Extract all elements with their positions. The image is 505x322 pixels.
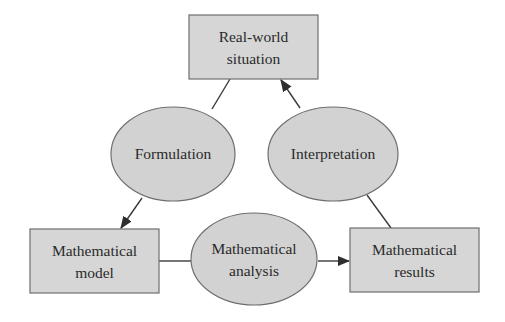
process-label: Formulation <box>135 145 212 162</box>
node-label-line2: model <box>75 264 114 281</box>
node-label-line2: situation <box>227 50 281 67</box>
modeling-cycle-diagram: Real-world situation Formulation Interpr… <box>0 0 505 322</box>
node-mathematical-results: Mathematical results <box>350 228 479 292</box>
process-label: Interpretation <box>291 145 376 162</box>
node-label-line1: Mathematical <box>372 241 457 258</box>
node-label-line1: Mathematical <box>52 242 137 259</box>
process-mathematical-analysis: Mathematical analysis <box>191 213 317 305</box>
edge-results-to-interpretation <box>367 195 391 228</box>
edge-realworld-to-formulation <box>212 79 230 109</box>
process-label-line1: Mathematical <box>211 240 296 257</box>
node-mathematical-model: Mathematical model <box>30 229 159 293</box>
node-real-world-situation: Real-world situation <box>189 15 318 79</box>
node-label-line1: Real-world <box>219 28 289 45</box>
process-formulation: Formulation <box>111 107 235 201</box>
edge-formulation-to-model-arrow <box>121 198 142 228</box>
process-label-line2: analysis <box>229 262 279 279</box>
process-interpretation: Interpretation <box>268 107 398 201</box>
edge-interpretation-to-realworld-arrow <box>281 80 300 108</box>
node-label-line2: results <box>394 263 434 280</box>
